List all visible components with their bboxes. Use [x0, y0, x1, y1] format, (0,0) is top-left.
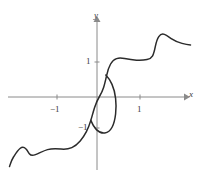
function-curve: [10, 34, 191, 166]
coordinate-plot: [0, 0, 199, 175]
y-axis-label: y: [94, 11, 98, 20]
x-tick-label-1: 1: [137, 105, 142, 114]
graph-figure: y x 1 −1 −1 1: [0, 0, 199, 175]
y-tick-label-neg1: −1: [78, 123, 88, 132]
y-tick-label-1: 1: [86, 57, 91, 66]
x-axis-label: x: [189, 90, 193, 99]
function-curve-lower-lobe: [91, 75, 116, 133]
x-tick-label-neg1: −1: [50, 105, 60, 114]
